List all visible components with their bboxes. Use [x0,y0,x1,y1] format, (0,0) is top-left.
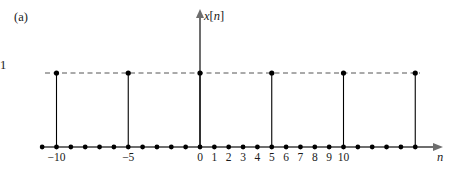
figure-panel-a: (a) x[n] n 1 −10−5012345678910 [0,0,457,175]
sample-marker [198,145,203,150]
stem-plot-svg [0,0,457,175]
sample-marker [355,145,360,150]
x-tick-label: 5 [269,152,275,164]
sample-marker [413,145,418,150]
sample-marker [255,145,260,150]
x-tick-label: 10 [338,152,350,164]
sample-marker [399,145,404,150]
sample-marker [241,145,246,150]
sample-marker [97,145,102,150]
sample-marker [384,145,389,150]
sample-marker [126,145,131,150]
sample-marker [83,145,88,150]
x-tick-label: 1 [211,152,217,164]
x-axis-label: n [437,151,443,164]
sample-marker [226,145,231,150]
stem-marker [341,70,346,75]
stem-marker [126,70,131,75]
sample-marker [183,145,188,150]
x-tick-label: 9 [326,152,332,164]
sample-marker [370,145,375,150]
sample-marker [312,145,317,150]
sample-marker [327,145,332,150]
sample-marker [284,145,289,150]
y-axis-arrowhead-icon [196,9,204,18]
x-tick-label: −10 [48,152,66,164]
sample-marker [169,145,174,150]
x-tick-label: 8 [312,152,318,164]
sample-marker [155,145,160,150]
x-tick-label: 0 [197,152,203,164]
sample-marker [68,145,73,150]
stem-marker [269,70,274,75]
sample-marker [298,145,303,150]
x-tick-label: 3 [240,152,246,164]
y-axis-label: x[n] [204,10,224,23]
x-tick-label: 4 [255,152,261,164]
x-tick-label: 2 [226,152,232,164]
sample-marker [269,145,274,150]
stem-marker [54,70,59,75]
sample-marker [112,145,117,150]
amplitude-tick-label: 1 [0,59,6,72]
sample-marker [140,145,145,150]
stem-marker [197,70,202,75]
sample-marker [212,145,217,150]
y-axis-label-bracket-close: ] [220,9,224,23]
sample-marker [54,145,59,150]
panel-label: (a) [14,11,28,24]
stem-marker [413,70,418,75]
x-tick-label: 6 [283,152,289,164]
x-tick-label: −5 [122,152,134,164]
sample-marker [40,145,45,150]
sample-marker [341,145,346,150]
x-tick-label: 7 [298,152,304,164]
